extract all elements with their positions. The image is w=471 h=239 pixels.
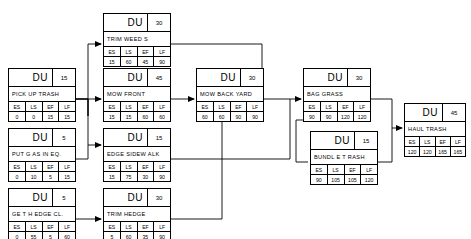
node-title: MOW FRONT (104, 87, 170, 102)
col-ef: EF (436, 137, 451, 146)
val-es: 90 (304, 112, 321, 121)
col-es: ES (9, 162, 26, 171)
node-get-hedge-cl[interactable]: DU 5 GE T H EDGE CL. ES LS EF LF 0 55 5 … (8, 188, 76, 239)
node-duration-header: DU 30 (104, 14, 170, 32)
node-header-row: ES LS EF LF (104, 102, 170, 112)
val-ef: 30 (138, 172, 155, 181)
node-value-row: 0 10 5 15 (9, 172, 75, 181)
val-lf: 90 (154, 172, 170, 181)
col-lf: LF (247, 102, 263, 111)
val-ef: 105 (345, 175, 362, 184)
node-title: BUNDL E T RASH (311, 150, 377, 165)
val-ef: 165 (436, 147, 451, 156)
du-value: 30 (147, 14, 170, 31)
val-ls: 60 (214, 112, 231, 121)
col-ef: EF (43, 162, 60, 171)
col-lf: LF (154, 102, 170, 111)
node-header-row: ES LS EF LF (197, 102, 263, 112)
val-es: 5 (104, 232, 121, 239)
node-header-row: ES LS EF LF (304, 102, 370, 112)
du-value: 15 (147, 129, 170, 146)
val-ef: 60 (138, 112, 155, 121)
node-trim-hedge[interactable]: DU 30 TRIM HEDGE ES LS EF LF 5 60 35 90 (103, 188, 171, 239)
col-ls: LS (321, 102, 338, 111)
node-value-row: 5 60 35 90 (104, 232, 170, 239)
node-header-row: ES LS EF LF (104, 47, 170, 57)
du-value: 15 (354, 132, 377, 149)
node-value-row: 0 0 15 15 (9, 112, 75, 121)
edge-baggrass-to-bundle (296, 120, 308, 162)
du-label: DU (104, 189, 147, 206)
val-ef: 90 (231, 112, 248, 121)
col-es: ES (304, 102, 321, 111)
val-ls: 60 (121, 57, 138, 66)
node-duration-header: DU 30 (304, 69, 370, 87)
node-bag-grass[interactable]: DU 30 BAG GRASS ES LS EF LF 90 90 120 12… (303, 68, 371, 122)
node-mow-back-yard[interactable]: DU 30 MOW BACK YARD ES LS EF LF 60 60 90… (196, 68, 264, 122)
col-ls: LS (26, 222, 43, 231)
val-lf: 120 (354, 112, 370, 121)
val-ef: 5 (43, 172, 60, 181)
du-label: DU (311, 132, 354, 149)
node-duration-header: DU 30 (197, 69, 263, 87)
val-lf: 120 (361, 175, 377, 184)
val-ls: 90 (321, 112, 338, 121)
col-ls: LS (420, 137, 435, 146)
val-es: 15 (104, 172, 121, 181)
val-ls: 10 (26, 172, 43, 181)
node-trim-weeds[interactable]: DU 30 TRIM WEED S ES LS EF LF 15 60 45 9… (103, 13, 171, 67)
node-duration-header: DU 15 (104, 129, 170, 147)
col-lf: LF (59, 222, 75, 231)
val-ls: 55 (26, 232, 43, 239)
node-title: GE T H EDGE CL. (9, 207, 75, 222)
col-lf: LF (59, 162, 75, 171)
val-ef: 35 (138, 232, 155, 239)
du-value: 5 (52, 189, 75, 206)
du-label: DU (9, 129, 52, 146)
node-mow-front[interactable]: DU 45 MOW FRONT ES LS EF LF 15 15 60 60 (103, 68, 171, 122)
node-duration-header: DU 15 (9, 69, 75, 87)
node-header-row: ES LS EF LF (104, 162, 170, 172)
du-label: DU (104, 14, 147, 31)
node-edge-sidewalk[interactable]: DU 15 EDGE SIDEW ALK ES LS EF LF 15 75 3… (103, 128, 171, 182)
col-ef: EF (43, 222, 60, 231)
node-title: TRIM WEED S (104, 32, 170, 47)
node-value-row: 15 15 60 60 (104, 112, 170, 121)
node-header-row: ES LS EF LF (9, 162, 75, 172)
node-haul-trash[interactable]: DU 45 HAUL TRASH ES LS EF LF 120 120 165… (404, 103, 466, 157)
du-value: 30 (240, 69, 263, 86)
col-ls: LS (26, 102, 43, 111)
val-lf: 90 (154, 232, 170, 239)
edge-pickup-stub (76, 99, 88, 116)
node-bundle-trash[interactable]: DU 15 BUNDL E T RASH ES LS EF LF 90 105 … (310, 131, 378, 185)
du-label: DU (9, 189, 52, 206)
du-label: DU (405, 104, 442, 121)
col-lf: LF (361, 165, 377, 174)
node-title: BAG GRASS (304, 87, 370, 102)
node-header-row: ES LS EF LF (405, 137, 465, 147)
val-es: 90 (311, 175, 328, 184)
col-lf: LF (154, 47, 170, 56)
val-lf: 90 (154, 57, 170, 66)
val-lf: 15 (59, 112, 75, 121)
col-ls: LS (121, 47, 138, 56)
edge-putgas-to-bus (76, 145, 88, 159)
col-ef: EF (138, 47, 155, 56)
node-duration-header: DU 5 (9, 129, 75, 147)
col-lf: LF (354, 102, 370, 111)
node-header-row: ES LS EF LF (9, 222, 75, 232)
val-es: 0 (9, 172, 26, 181)
node-put-gas-in-eq[interactable]: DU 5 PUT G AS IN EQ. ES LS EF LF 0 10 5 … (8, 128, 76, 182)
col-ef: EF (231, 102, 248, 111)
edge-baggrass-right (371, 99, 392, 128)
node-pick-up-trash[interactable]: DU 15 PICK UP TRASH ES LS EF LF 0 0 15 1… (8, 68, 76, 122)
val-lf: 60 (154, 112, 170, 121)
col-ef: EF (345, 165, 362, 174)
col-es: ES (104, 102, 121, 111)
col-ef: EF (138, 162, 155, 171)
val-lf: 165 (451, 147, 465, 156)
node-header-row: ES LS EF LF (104, 222, 170, 232)
node-title: MOW BACK YARD (197, 87, 263, 102)
col-es: ES (104, 162, 121, 171)
du-value: 30 (147, 189, 170, 206)
